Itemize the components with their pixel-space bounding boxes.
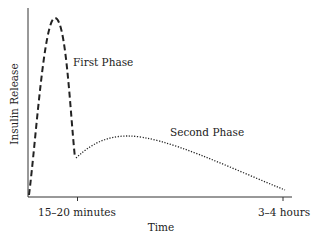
x-tick-label-3-4-hours: 3–4 hours — [258, 206, 310, 218]
second-phase-label: Second Phase — [170, 126, 244, 138]
insulin-release-chart: First Phase Second Phase 15–20 minutes 3… — [0, 0, 322, 242]
axes — [28, 8, 292, 201]
second-phase-curve — [76, 136, 285, 190]
y-axis-label: Insulin Release — [8, 63, 20, 144]
x-tick-label-15-20-minutes: 15–20 minutes — [38, 206, 116, 218]
first-phase-label: First Phase — [73, 56, 133, 68]
x-axis-label: Time — [148, 221, 175, 233]
first-phase-curve — [29, 18, 75, 195]
